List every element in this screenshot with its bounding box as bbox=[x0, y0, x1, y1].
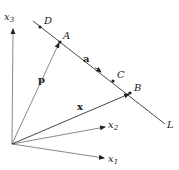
label-vector-a: a bbox=[83, 53, 90, 64]
label-D: D bbox=[43, 15, 52, 26]
label-A: A bbox=[62, 30, 70, 41]
label-B: B bbox=[133, 82, 141, 93]
label-C: C bbox=[117, 69, 125, 80]
label-vector-p: p bbox=[38, 74, 45, 85]
axis-label-x1-sub: 1 bbox=[114, 158, 118, 166]
x3-axis bbox=[12, 29, 13, 144]
vector-p bbox=[12, 43, 59, 144]
axis-label-x2: x2 bbox=[108, 119, 119, 132]
axis-label-x3: x3 bbox=[4, 11, 15, 24]
point-D bbox=[38, 25, 41, 28]
line-vector-diagram: x3 x2 x1 D A C B L p x a bbox=[0, 0, 179, 170]
point-A bbox=[58, 40, 61, 43]
label-vector-x: x bbox=[77, 101, 84, 112]
x2-axis bbox=[12, 127, 105, 144]
x1-axis bbox=[12, 144, 104, 158]
axis-label-x3-sub: 3 bbox=[10, 16, 15, 24]
line-L bbox=[33, 21, 165, 124]
point-C bbox=[111, 79, 114, 82]
axis-label-x2-sub: 2 bbox=[113, 124, 119, 132]
point-B bbox=[128, 91, 131, 94]
label-L: L bbox=[166, 119, 174, 130]
axis-label-x1: x1 bbox=[108, 153, 118, 166]
